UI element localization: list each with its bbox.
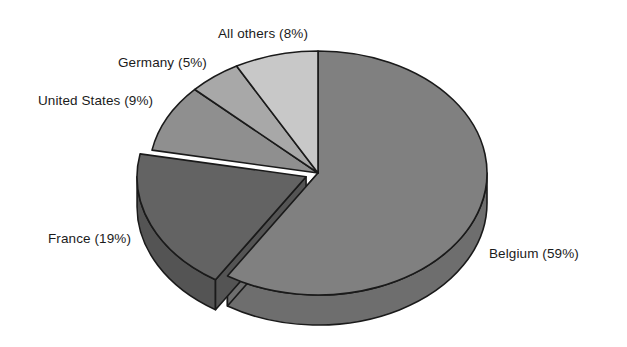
slice-label-belgium: Belgium (59%) <box>489 246 579 261</box>
pie-top-faces <box>137 51 487 295</box>
slice-label-all-others: All others (8%) <box>218 26 308 41</box>
slice-label-united-states: United States (9%) <box>38 93 153 108</box>
pie-chart-figure: All others (8%) Germany (5%) United Stat… <box>0 0 627 347</box>
slice-label-germany: Germany (5%) <box>118 55 207 70</box>
slice-label-france: France (19%) <box>48 231 131 246</box>
pie-chart-svg <box>0 0 627 347</box>
